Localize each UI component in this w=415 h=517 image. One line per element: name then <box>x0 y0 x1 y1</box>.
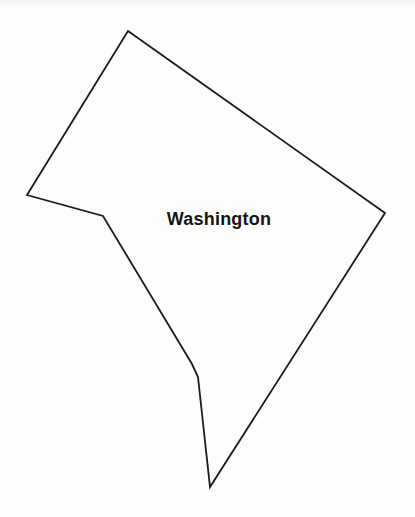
washington-outline-map: Washington <box>0 0 415 517</box>
map-page: Washington <box>0 0 415 517</box>
washington-label: Washington <box>167 209 271 229</box>
washington-boundary-outline <box>27 31 385 487</box>
